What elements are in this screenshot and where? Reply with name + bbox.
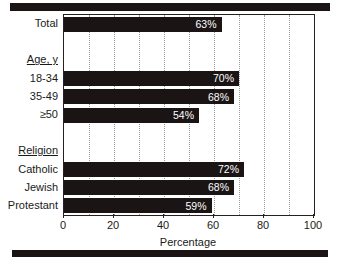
bar-value-label: 72% <box>218 164 244 175</box>
category-label: Catholic <box>18 163 58 175</box>
x-tick <box>163 214 164 218</box>
bar: 68% <box>64 180 234 195</box>
bar-value-label: 54% <box>173 110 199 121</box>
category-label: Protestant <box>8 199 58 211</box>
bar: 72% <box>64 162 244 177</box>
x-tick-label: 100 <box>304 219 322 231</box>
bar-value-label: 59% <box>185 201 211 212</box>
category-label: 18-34 <box>30 72 58 84</box>
bar: 68% <box>64 89 234 104</box>
category-label: ≥50 <box>40 108 58 120</box>
x-axis-title: Percentage <box>63 236 313 248</box>
bar-value-label: 70% <box>213 73 239 84</box>
bar: 63% <box>64 17 222 32</box>
bar-value-label: 68% <box>208 92 234 103</box>
x-tick-label: 60 <box>207 219 219 231</box>
x-tick <box>213 214 214 218</box>
bar: 70% <box>64 71 239 86</box>
x-tick <box>63 214 64 218</box>
x-tick-label: 0 <box>60 219 66 231</box>
category-label: 35-49 <box>30 90 58 102</box>
category-label: Jewish <box>24 181 58 193</box>
x-tick <box>263 214 264 218</box>
bottom-rule-band <box>12 250 328 257</box>
bar-value-label: 63% <box>195 19 221 30</box>
bar-chart-figure: TotalAge, y18-3435-49≥50ReligionCatholic… <box>0 14 338 246</box>
category-group-header: Age, y <box>27 53 58 65</box>
bar: 59% <box>64 198 212 213</box>
bar: 54% <box>64 108 199 123</box>
plot-area: 63%70%68%54%72%68%59% <box>63 14 315 216</box>
bar-series: 63%70%68%54%72%68%59% <box>64 15 314 215</box>
bar-value-label: 68% <box>208 182 234 193</box>
category-group-header: Religion <box>18 144 58 156</box>
x-axis-tick-labels: 020406080100 <box>63 219 313 235</box>
x-tick <box>113 214 114 218</box>
x-tick-label: 40 <box>157 219 169 231</box>
category-label: Total <box>35 17 58 29</box>
x-tick <box>313 214 314 218</box>
top-rule-band <box>10 3 330 11</box>
x-tick-label: 20 <box>107 219 119 231</box>
category-axis-labels: TotalAge, y18-3435-49≥50ReligionCatholic… <box>0 14 63 214</box>
x-tick-label: 80 <box>257 219 269 231</box>
